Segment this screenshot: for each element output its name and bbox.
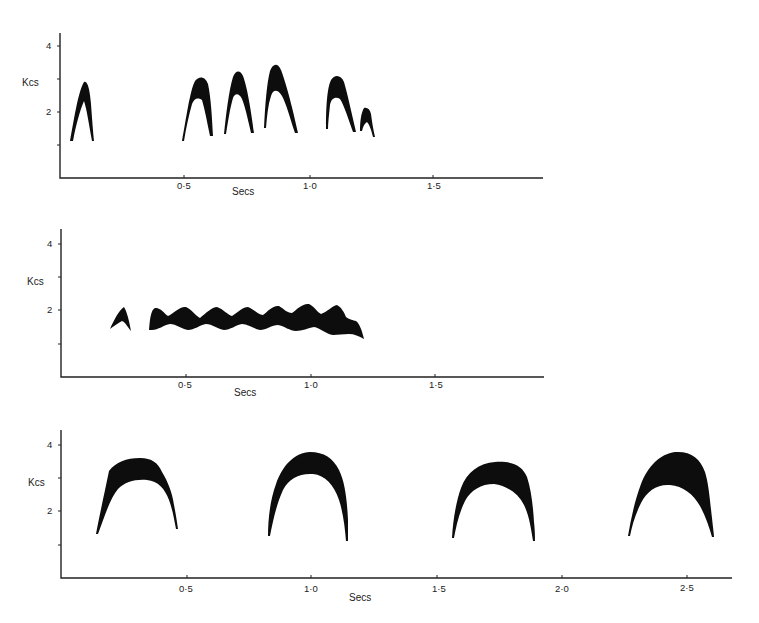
panel-1-ytick-2: 2 (46, 106, 51, 117)
panel-3-notes (96, 452, 714, 541)
panel-3-xtick-2.0: 2·0 (555, 583, 569, 594)
panel-3-xlabel: Secs (349, 592, 371, 603)
panel-1-xtick-1.0: 1·0 (303, 180, 317, 191)
panel-2-xtick-0.5: 0·5 (178, 379, 192, 390)
panel-1-xlabel: Secs (232, 186, 254, 197)
note-5 (326, 76, 356, 132)
panel-3-ytick-4: 4 (47, 439, 52, 450)
panel-2-ytick-4: 4 (47, 238, 52, 249)
panel-3-axes (61, 430, 732, 578)
panel-2-xlabel: Secs (234, 387, 256, 398)
arch-note-4 (628, 452, 714, 537)
panel-1-axes (60, 33, 543, 178)
panel-2-ylabel: Kcs (27, 276, 44, 287)
panel-2-ytick-2: 2 (47, 304, 52, 315)
panel-2-xtick-1.5: 1·5 (429, 379, 443, 390)
panel-1-notes (70, 65, 375, 141)
panel-2-xtick-1.0: 1·0 (304, 379, 318, 390)
chevron-note (110, 307, 131, 331)
panel-3-xtick-1.5: 1·5 (432, 583, 446, 594)
panel-1-xtick-1.5: 1·5 (427, 180, 441, 191)
sonogram-figure: 4 2 Kcs 0·5 1·0 1·5 Secs 4 (0, 0, 759, 623)
panel-3-xtick-2.5: 2·5 (680, 582, 694, 593)
panel-3-xtick-1.0: 1·0 (304, 583, 318, 594)
note-1 (70, 82, 94, 141)
panel-2: 4 2 Kcs 0·5 1·0 1·5 Secs (27, 229, 544, 398)
arch-note-1 (96, 458, 178, 534)
arch-note-3 (452, 462, 535, 541)
arch-note-2 (268, 452, 348, 541)
panel-1-xtick-0.5: 0·5 (177, 180, 191, 191)
panel-3-ytick-2: 2 (47, 505, 52, 516)
panel-3-ylabel: Kcs (28, 477, 45, 488)
panel-1: 4 2 Kcs 0·5 1·0 1·5 Secs (22, 33, 543, 197)
panel-2-notes (110, 304, 364, 339)
trill-band (149, 304, 364, 339)
note-6 (360, 108, 375, 137)
panel-3: 4 2 Kcs 0·5 1·0 1·5 2·0 2·5 Secs (28, 430, 732, 603)
panel-1-ylabel: Kcs (22, 77, 39, 88)
panel-2-axes (61, 229, 544, 377)
panel-1-ytick-4: 4 (46, 40, 51, 51)
note-3 (224, 72, 254, 134)
panel-3-xtick-0.5: 0·5 (179, 583, 193, 594)
note-4 (264, 65, 298, 133)
note-2 (182, 78, 213, 141)
